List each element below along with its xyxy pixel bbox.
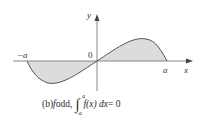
figure-caption: (b) f odd, ∫ a −a f(x) dx = 0 — [42, 97, 120, 112]
odd-function-figure: y 0 −a a x (b) f odd, ∫ a −a f(x) dx = 0 — [0, 0, 200, 126]
integral-lower-limit: −a — [75, 111, 81, 117]
caption-prefix: (b) — [42, 100, 53, 110]
pos-a-label: a — [163, 66, 168, 75]
y-axis-arrow-icon — [95, 14, 100, 21]
caption-integrand: f(x) dx — [83, 100, 108, 110]
y-axis-label: y — [87, 11, 91, 20]
caption-equals: = 0 — [108, 100, 120, 110]
x-axis-arrow-icon — [186, 59, 193, 64]
integral-sign-icon: ∫ a −a — [75, 97, 79, 112]
shaded-region-positive — [97, 39, 167, 61]
integral-upper-limit: a — [82, 94, 85, 100]
neg-a-label: −a — [17, 51, 28, 60]
shaded-region-negative — [27, 61, 97, 83]
origin-label: 0 — [88, 51, 93, 60]
caption-odd: odd, — [56, 100, 73, 110]
x-axis-label: x — [184, 66, 188, 75]
